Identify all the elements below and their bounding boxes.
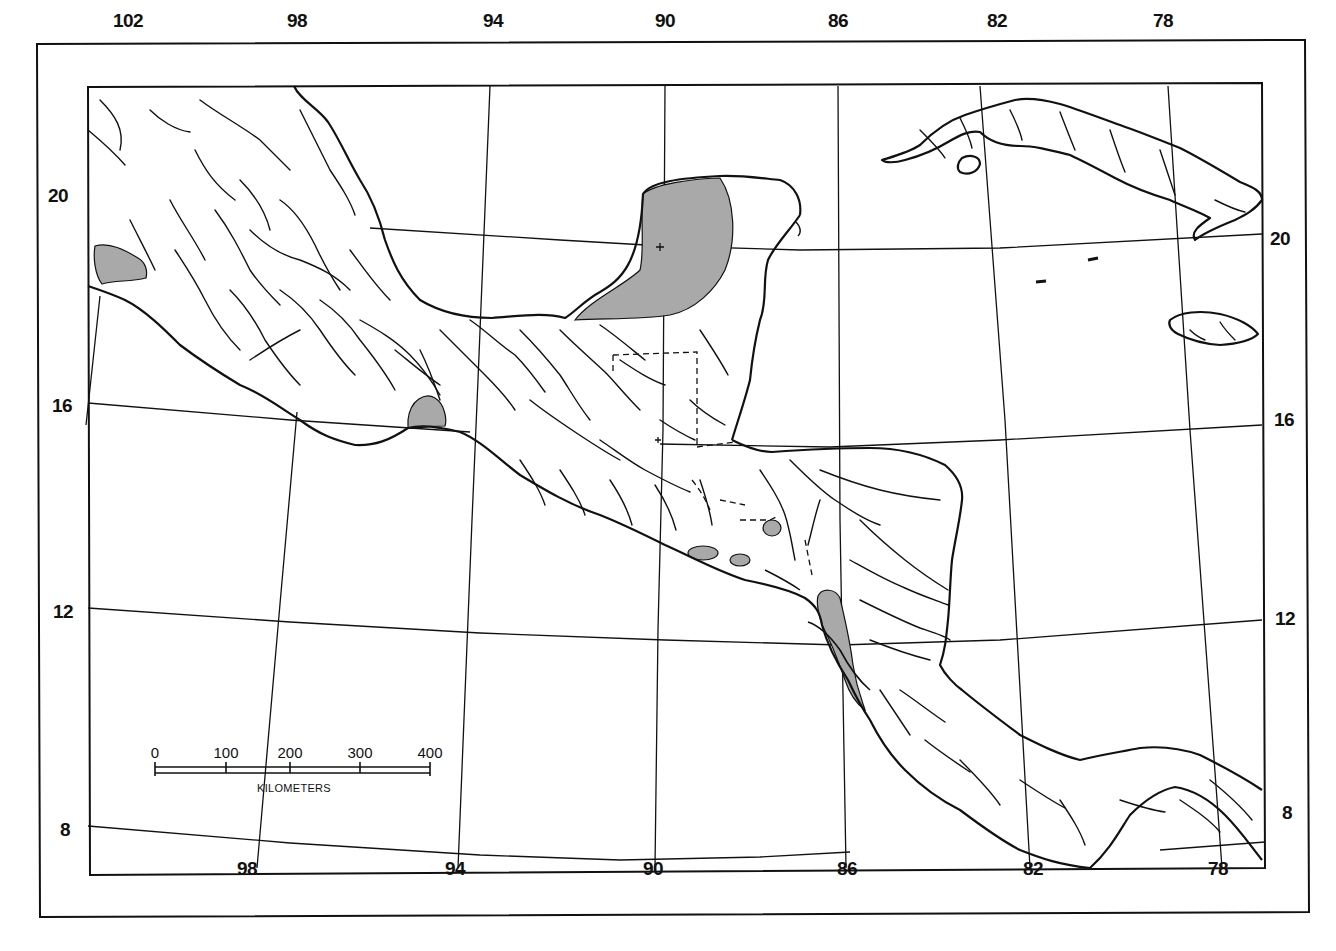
lon-label-top: 78 [1153,10,1173,32]
lon-label-bottom: 98 [237,858,257,880]
lat-label-right: 12 [1275,608,1295,630]
lon-label-top: 86 [828,10,848,32]
lon-label-top: 82 [987,10,1007,32]
lon-label-bottom: 94 [445,858,465,880]
lat-label-right: 20 [1270,228,1290,250]
scale-tick-label: 100 [213,744,238,761]
lon-label-bottom: 78 [1208,858,1228,880]
lon-label-bottom: 82 [1023,858,1043,880]
map-canvas [0,0,1336,951]
scale-tick-label: 200 [277,744,302,761]
lat-label-right: 16 [1274,409,1294,431]
lat-label-right: 8 [1282,802,1292,824]
shade-honduras [763,520,781,536]
lat-label-left: 8 [60,819,70,841]
lon-label-top: 90 [655,10,675,32]
scale-tick-label: 0 [151,744,159,761]
lat-label-left: 12 [53,601,73,623]
scale-bar [155,762,430,776]
lat-label-left: 16 [52,395,72,417]
shade-guatemala-2 [730,554,750,566]
lon-label-bottom: 90 [643,858,663,880]
coast-panama-south [1090,787,1262,868]
coast-caribbean [732,440,1262,790]
scale-unit-label: KILOMETERS [257,782,331,794]
outer-frame [37,40,1309,917]
lon-label-top: 98 [287,10,307,32]
lon-label-bottom: 86 [837,858,857,880]
graticule-parallels [88,228,1265,860]
lon-label-top: 94 [483,10,503,32]
shade-west-mexico [94,245,146,284]
lon-label-top: 102 [113,10,143,32]
island-cuba [882,99,1262,240]
shade-nicaragua-lakes [817,590,865,710]
island-isla-juventud [958,156,980,174]
map-figure: 102 98 94 90 86 82 78 98 94 90 86 82 78 … [0,0,1336,951]
scale-tick-label: 300 [347,744,372,761]
shade-tehuantepec [408,396,446,428]
shade-yucatan [575,178,733,320]
coast-pacific [88,286,1090,868]
boundaries [613,352,812,575]
lat-label-left: 20 [48,185,68,207]
scale-tick-label: 400 [417,744,442,761]
